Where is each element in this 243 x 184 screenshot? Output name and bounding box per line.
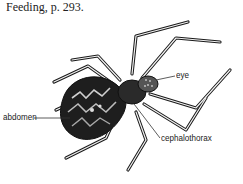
abdomen-label: abdomen: [3, 111, 37, 122]
spider-abdomen: [60, 77, 126, 140]
eye-label: eye: [176, 69, 189, 80]
spider-illustration: [0, 0, 243, 184]
cephalothorax-label: cephalothorax: [161, 132, 212, 143]
eye-leader-line: [156, 76, 175, 80]
spider-cephalothorax: [118, 76, 158, 104]
